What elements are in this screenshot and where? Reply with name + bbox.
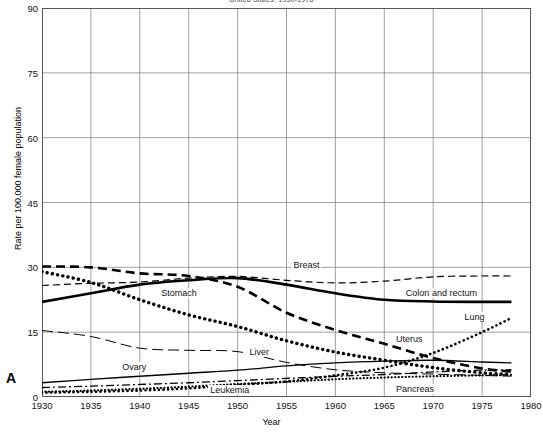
y-tick-label: 60	[8, 132, 38, 143]
series-label-lung: Lung	[463, 312, 487, 322]
x-tick-label: 1955	[276, 400, 297, 411]
x-tick-label: 1960	[325, 400, 346, 411]
series-label-uterus: Uterus	[394, 334, 425, 344]
x-tick-label: 1940	[129, 400, 150, 411]
chart-title: United States, 1930-1978	[0, 0, 543, 3]
series-label-colon-and-rectum: Colon and rectum	[404, 288, 479, 298]
series-label-ovary: Ovary	[120, 362, 148, 372]
y-tick-label: 30	[8, 262, 38, 273]
series-label-pancreas: Pancreas	[394, 384, 436, 394]
x-tick-label: 1930	[31, 400, 52, 411]
x-axis-label: Year	[0, 417, 543, 427]
series-label-breast: Breast	[291, 260, 321, 270]
series-label-leukemia: Leukemia	[208, 385, 251, 395]
chart-figure: United States, 1930-1978 Rate per 100,00…	[0, 0, 543, 434]
y-tick-label: 90	[8, 3, 38, 14]
y-axis-ticks: 0153045607590	[6, 0, 38, 434]
chart-svg	[42, 8, 531, 397]
y-tick-label: 15	[8, 327, 38, 338]
x-tick-label: 1965	[374, 400, 395, 411]
plot-area	[42, 8, 531, 397]
x-tick-label: 1980	[520, 400, 541, 411]
series-label-stomach: Stomach	[159, 288, 199, 298]
x-tick-label: 1950	[227, 400, 248, 411]
series-line-pancreas	[42, 370, 511, 388]
x-tick-label: 1970	[423, 400, 444, 411]
y-tick-label: 75	[8, 67, 38, 78]
x-tick-label: 1935	[80, 400, 101, 411]
y-tick-label: 45	[8, 197, 38, 208]
series-label-liver: Liver	[247, 347, 271, 357]
x-tick-label: 1975	[472, 400, 493, 411]
x-tick-label: 1945	[178, 400, 199, 411]
series-line-ovary	[42, 360, 511, 383]
